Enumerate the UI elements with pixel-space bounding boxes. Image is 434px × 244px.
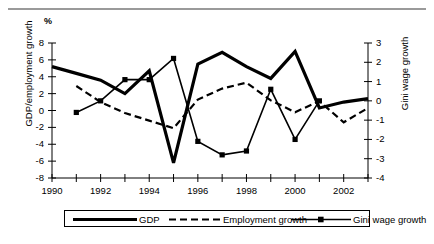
x-tick-label: 1998 [226,186,266,196]
y-tick-label-left: -6 [22,156,44,166]
series-marker [317,98,322,103]
series-marker [74,110,79,115]
x-tick-label: 1990 [32,186,72,196]
unit-label: % [44,16,52,26]
y-tick-label-right: -1 [376,115,398,125]
y-tick-label-right: 0 [376,96,398,106]
header-divider [8,8,426,10]
y-tick-label-left: -4 [22,139,44,149]
y-tick-label-right: 3 [376,38,398,48]
x-tick-label: 2000 [275,186,315,196]
series-marker [122,77,127,82]
series-marker [171,56,176,61]
series-marker [244,148,249,153]
plot-area [0,0,434,244]
series-marker [98,98,103,103]
y-tick-label-left: -2 [22,122,44,132]
y-tick-label-left: 6 [22,55,44,65]
y-tick-label-right: -4 [376,173,398,183]
series-marker [195,139,200,144]
series-marker [147,77,152,82]
x-tick-label: 1992 [81,186,121,196]
y-tick-label-left: -8 [22,173,44,183]
y-tick-label-left: 2 [22,89,44,99]
x-tick-label: 1996 [178,186,218,196]
y-tick-label-left: 8 [22,38,44,48]
y-tick-label-right: 1 [376,77,398,87]
legend-label-employment-growth: Employment growth [223,214,307,225]
legend: GDP Employment growth Gini wage growth [64,210,370,227]
y-tick-label-left: 4 [22,72,44,82]
y-tick-label-right: -3 [376,154,398,164]
y-tick-label-left: 0 [22,106,44,116]
y-tick-label-right: 2 [376,57,398,67]
x-tick-label: 1994 [129,186,169,196]
legend-label-gini-wage-growth: Gini wage growth [353,214,426,225]
legend-glyphs [65,211,369,226]
series-line-gdp [52,51,368,162]
series-marker [268,87,273,92]
chart-figure: % GDP/employment growth Gini wage growth… [0,0,434,244]
legend-label-gdp: GDP [139,214,160,225]
y-axis-right-title: Gini wage growth [399,0,410,148]
series-marker [220,152,225,157]
series-marker [292,137,297,142]
x-tick-label: 2002 [324,186,364,196]
y-tick-label-right: -2 [376,134,398,144]
